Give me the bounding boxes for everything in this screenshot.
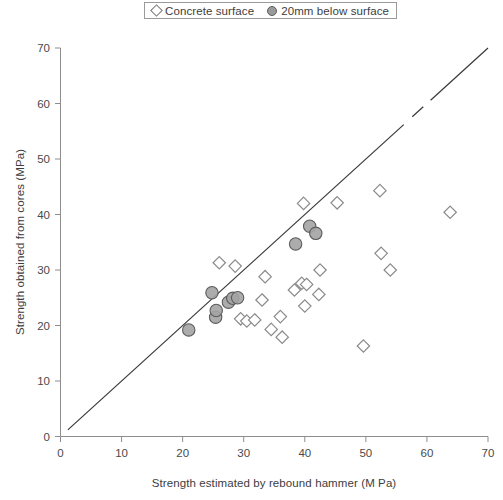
y-tick-label: 0 bbox=[44, 431, 50, 443]
x-tick-label: 70 bbox=[482, 447, 495, 459]
y-tick-group: 010203040506070 bbox=[37, 42, 60, 443]
data-point-concrete-surface bbox=[229, 260, 241, 272]
y-tick-label: 10 bbox=[37, 375, 50, 387]
legend-item-20mm-below-surface: 20mm below surface bbox=[267, 5, 389, 17]
data-point-20mm-below-surface bbox=[289, 238, 301, 250]
filled-circle-marker-icon bbox=[267, 6, 277, 16]
data-point-20mm-below-surface bbox=[231, 292, 243, 304]
y-tick-label: 30 bbox=[37, 264, 50, 276]
data-point-20mm-below-surface bbox=[310, 227, 322, 239]
data-point-concrete-surface bbox=[313, 288, 325, 300]
x-tick-label: 40 bbox=[298, 447, 311, 459]
data-point-concrete-surface bbox=[331, 197, 343, 209]
data-point-concrete-surface bbox=[274, 310, 286, 322]
y-tick-label: 70 bbox=[37, 42, 50, 54]
y-tick-label: 20 bbox=[37, 320, 50, 332]
y-tick-label: 40 bbox=[37, 209, 50, 221]
x-tick-label: 50 bbox=[359, 447, 372, 459]
data-point-concrete-surface bbox=[213, 257, 225, 269]
data-point-20mm-below-surface bbox=[206, 287, 218, 299]
data-point-concrete-surface bbox=[259, 270, 271, 282]
legend-label-20mm-below-surface: 20mm below surface bbox=[281, 5, 389, 17]
data-point-concrete-surface bbox=[256, 294, 268, 306]
line-of-equality-path bbox=[68, 48, 488, 430]
legend-item-concrete-surface: Concrete surface bbox=[152, 5, 254, 17]
x-tick-group: 010203040506070 bbox=[57, 437, 494, 460]
data-point-concrete-surface bbox=[297, 197, 309, 209]
x-tick-label: 10 bbox=[115, 447, 128, 459]
open-diamond-marker-icon bbox=[150, 4, 163, 17]
data-point-concrete-surface bbox=[314, 264, 326, 276]
series-concrete-surface bbox=[213, 184, 456, 352]
line-of-equality bbox=[68, 48, 488, 430]
data-point-20mm-below-surface bbox=[210, 304, 222, 316]
legend-label-concrete-surface: Concrete surface bbox=[165, 5, 254, 17]
data-point-concrete-surface bbox=[375, 247, 387, 259]
y-tick-label: 50 bbox=[37, 153, 50, 165]
x-tick-label: 0 bbox=[57, 447, 63, 459]
scatter-chart: Concrete surface 20mm below surface 0102… bbox=[0, 0, 503, 500]
data-point-concrete-surface bbox=[265, 323, 277, 335]
data-point-concrete-surface bbox=[374, 184, 386, 196]
chart-legend: Concrete surface 20mm below surface bbox=[144, 2, 397, 19]
x-axis-title: Strength estimated by rebound hammer (M … bbox=[152, 477, 397, 489]
data-point-20mm-below-surface bbox=[183, 324, 195, 336]
x-tick-label: 60 bbox=[421, 447, 434, 459]
plot-area: 010203040506070 010203040506070 Strength… bbox=[0, 0, 503, 500]
y-axis-title: Strength obtained from cores (MPa) bbox=[14, 149, 26, 335]
data-point-concrete-surface bbox=[276, 331, 288, 343]
data-point-concrete-surface bbox=[357, 340, 369, 352]
data-point-concrete-surface bbox=[384, 264, 396, 276]
data-point-concrete-surface bbox=[299, 300, 311, 312]
data-point-concrete-surface bbox=[444, 206, 456, 218]
x-tick-label: 20 bbox=[176, 447, 189, 459]
y-tick-label: 60 bbox=[37, 98, 50, 110]
x-tick-label: 30 bbox=[237, 447, 250, 459]
